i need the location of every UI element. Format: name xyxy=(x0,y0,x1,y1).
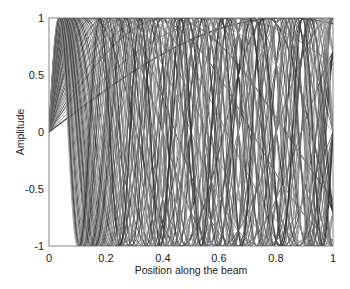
x-tick-0.4: 0.4 xyxy=(155,252,170,264)
y-tick-0: 0 xyxy=(38,126,44,138)
y-tick-0.5: 0.5 xyxy=(29,69,44,81)
x-ticks: 0 0.2 0.4 0.6 0.8 1 xyxy=(46,252,336,264)
x-tick-1: 1 xyxy=(330,252,336,264)
mode-shape-chart: 1 0.5 0 -0.5 -1 0 0.2 0.4 0.6 0.8 1 Posi… xyxy=(0,0,350,289)
x-tick-0: 0 xyxy=(46,252,52,264)
y-tick-neg0.5: -0.5 xyxy=(25,183,44,195)
curve-series xyxy=(49,18,333,246)
x-axis-label: Position along the beam xyxy=(135,264,248,276)
y-ticks: 1 0.5 0 -0.5 -1 xyxy=(25,12,44,252)
x-tick-0.8: 0.8 xyxy=(268,252,283,264)
y-tick-1: 1 xyxy=(38,12,44,24)
y-tick-neg1: -1 xyxy=(34,240,44,252)
y-axis-label: Amplitude xyxy=(14,109,26,156)
x-tick-0.2: 0.2 xyxy=(98,252,113,264)
x-tick-0.6: 0.6 xyxy=(211,252,226,264)
